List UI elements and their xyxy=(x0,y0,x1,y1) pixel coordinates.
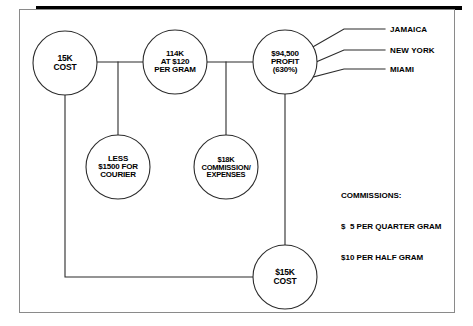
link-profit-to-new-york xyxy=(316,50,385,62)
link-profit-to-jamaica xyxy=(311,29,385,48)
commissions-half-gram: $10 PER HALF GRAM xyxy=(341,253,441,263)
destination-label-miami: MIAMI xyxy=(390,65,414,74)
circle-courier xyxy=(86,135,150,199)
diagram-screenshot: 15K COST 114K AT $120 PER GRAM $94,500 P… xyxy=(0,0,473,326)
circle-profit xyxy=(253,30,317,94)
commissions-quarter-gram: $ 5 PER QUARTER GRAM xyxy=(341,222,441,232)
circle-cost-15k xyxy=(33,31,97,95)
link-profit-to-miami xyxy=(313,69,385,77)
commissions-note: COMMISSIONS: $ 5 PER QUARTER GRAM $10 PE… xyxy=(341,170,441,284)
destination-label-jamaica: JAMAICA xyxy=(390,25,427,34)
node-circles xyxy=(33,30,317,309)
commissions-heading: COMMISSIONS: xyxy=(341,191,441,201)
circle-commission-18k xyxy=(194,135,258,199)
circle-cost-15k-bottom xyxy=(253,245,317,309)
circle-gram-114k xyxy=(143,30,207,94)
destination-label-new-york: NEW YORK xyxy=(390,46,435,55)
